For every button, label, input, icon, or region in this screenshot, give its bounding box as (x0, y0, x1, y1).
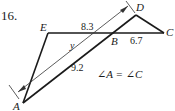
tick-lower (9, 85, 19, 99)
label-point-C: C (166, 27, 173, 38)
measure-y: y (70, 41, 74, 51)
label-point-D: D (136, 2, 144, 13)
label-point-B: B (111, 36, 118, 47)
arrowhead-lower-icon (18, 85, 26, 92)
label-point-A: A (13, 101, 20, 111)
arrowhead-upper-icon (120, 6, 128, 13)
angle-condition: ∠A = ∠C (97, 69, 142, 80)
segment-DC (136, 15, 164, 33)
measure-AB: 9.2 (71, 63, 84, 73)
label-point-E: E (40, 22, 47, 33)
diagram-svg (0, 0, 175, 111)
problem-number: 16. (1, 9, 17, 22)
measure-EB: 8.3 (81, 22, 94, 32)
measure-BC: 6.7 (130, 36, 143, 46)
